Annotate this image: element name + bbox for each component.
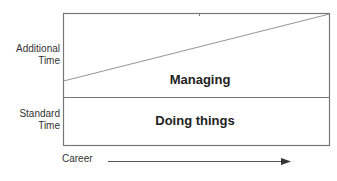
career-arrow-head-icon (281, 158, 291, 165)
region-label-doing-things: Doing things (130, 113, 260, 128)
y-label-additional-line2: Time (0, 55, 60, 67)
y-label-standard-line2: Time (0, 120, 60, 132)
y-label-additional-time: Additional Time (0, 43, 60, 67)
managing-growth-line (64, 14, 330, 81)
x-label-career: Career (62, 153, 93, 164)
region-label-managing: Managing (150, 72, 250, 87)
diagram-canvas (0, 0, 337, 181)
y-label-standard-line1: Standard (0, 108, 60, 120)
y-label-additional-line1: Additional (0, 43, 60, 55)
y-label-standard-time: Standard Time (0, 108, 60, 132)
